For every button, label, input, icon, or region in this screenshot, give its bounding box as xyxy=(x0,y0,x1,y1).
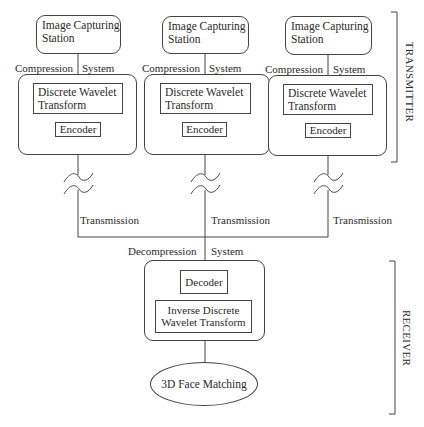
transmission-label-3: Transmission xyxy=(333,214,392,226)
face-matching-ellipse: 3D Face Matching xyxy=(150,362,258,406)
system-label: System xyxy=(209,62,241,74)
station-label-line1: Image Capturing xyxy=(168,20,248,33)
station-label-line2: Station xyxy=(168,33,248,46)
decoder-box: Decoder xyxy=(180,270,228,294)
transmission-label-1: Transmission xyxy=(80,214,139,226)
transmitter-label: TRANSMITTER xyxy=(402,37,416,127)
idwt-box: Inverse Discrete Wavelet Transform xyxy=(155,300,252,333)
system-label: System xyxy=(82,62,114,74)
dwt-label-line1: Discrete Wavelet xyxy=(165,86,250,99)
station-label-line2: Station xyxy=(42,32,120,45)
encoder-box-1: Encoder xyxy=(55,122,101,137)
dwt-label-line2: Transform xyxy=(288,100,372,113)
dwt-label-line1: Discrete Wavelet xyxy=(288,87,372,100)
compression-label: Compression xyxy=(15,62,73,74)
image-capturing-station-1: Image Capturing Station xyxy=(36,15,121,54)
transmitter-bracket xyxy=(391,12,397,162)
dwt-box-2: Discrete Wavelet Transform xyxy=(160,83,251,114)
compression-label: Compression xyxy=(142,62,200,74)
transmission-label-2: Transmission xyxy=(211,214,270,226)
dwt-label-line2: Transform xyxy=(165,99,250,112)
receiver-label: RECEIVER xyxy=(399,302,413,374)
idwt-label-line2: Wavelet Transform xyxy=(156,316,251,328)
station-label-line2: Station xyxy=(291,33,371,46)
station-label-line1: Image Capturing xyxy=(291,20,371,33)
face-matching-label: 3D Face Matching xyxy=(161,378,247,390)
decompression-label: Decompression xyxy=(128,245,196,257)
encoder-box-3: Encoder xyxy=(305,123,351,138)
decompression-system-label: System xyxy=(211,245,243,257)
encoder-box-2: Encoder xyxy=(182,122,227,137)
image-capturing-station-2: Image Capturing Station xyxy=(162,16,249,54)
image-capturing-station-3: Image Capturing Station xyxy=(285,16,372,55)
dwt-box-3: Discrete Wavelet Transform xyxy=(283,84,373,115)
dwt-label-line2: Transform xyxy=(38,99,122,112)
station-label-line1: Image Capturing xyxy=(42,19,120,32)
system-label: System xyxy=(333,63,365,75)
idwt-label-line1: Inverse Discrete xyxy=(156,304,251,316)
dwt-box-1: Discrete Wavelet Transform xyxy=(33,83,123,114)
receiver-bracket xyxy=(389,261,395,414)
compression-label: Compression xyxy=(265,63,323,75)
dwt-label-line1: Discrete Wavelet xyxy=(38,86,122,99)
